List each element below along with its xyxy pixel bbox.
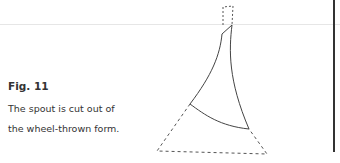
spout-rim-line (222, 25, 232, 34)
spout-tip-outline (223, 6, 233, 25)
spout-cut-arc (190, 104, 249, 129)
spout-left-edge (190, 34, 222, 104)
spout-right-edge (230, 25, 249, 129)
form-outline-dashed (157, 104, 267, 154)
spout-illustration (0, 0, 340, 163)
